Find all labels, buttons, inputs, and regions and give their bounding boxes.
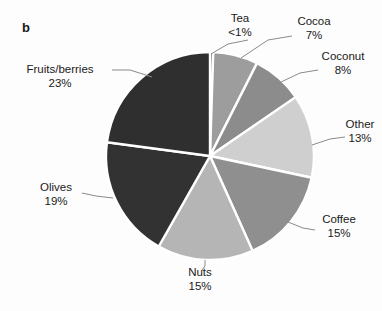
slice-label-other-value: 13% [338, 131, 382, 145]
pie-chart-figure: b Tea <1% Cocoa 7% Coconut 8% Other 13% … [0, 0, 382, 311]
slice-label-cocoa-name: Cocoa [288, 14, 340, 28]
slice-label-nuts-value: 15% [174, 279, 226, 293]
slice-label-tea: Tea <1% [216, 11, 264, 39]
slice-label-cocoa-value: 7% [288, 28, 340, 42]
slice-label-fruits-berries-value: 23% [10, 76, 110, 90]
slice-label-nuts: Nuts 15% [174, 265, 226, 293]
slice-label-fruits-berries: Fruits/berries 23% [10, 62, 110, 90]
slice-label-coconut-value: 8% [312, 63, 374, 77]
slice-label-other: Other 13% [338, 117, 382, 145]
slice-label-coffee-value: 15% [314, 226, 364, 240]
leader-line-coffee [288, 222, 315, 230]
slice-label-olives-value: 19% [30, 194, 82, 208]
slice-label-tea-name: Tea [216, 11, 264, 25]
panel-label-b: b [22, 20, 30, 35]
slice-label-olives-name: Olives [30, 180, 82, 194]
slice-label-other-name: Other [338, 117, 382, 131]
pie-slices [106, 52, 314, 260]
slice-label-coffee-name: Coffee [314, 212, 364, 226]
slice-label-coconut: Coconut 8% [312, 49, 374, 77]
slice-label-tea-value: <1% [216, 25, 264, 39]
slice-label-olives: Olives 19% [30, 180, 82, 208]
pie-slice-fruits-berries[interactable] [107, 52, 210, 156]
slice-label-coconut-name: Coconut [312, 49, 374, 63]
leader-line-cocoa [241, 36, 292, 58]
slice-label-coffee: Coffee 15% [314, 212, 364, 240]
slice-label-nuts-name: Nuts [174, 265, 226, 279]
slice-label-cocoa: Cocoa 7% [288, 14, 340, 42]
slice-label-fruits-berries-name: Fruits/berries [10, 62, 110, 76]
leader-line-olives [82, 193, 113, 198]
